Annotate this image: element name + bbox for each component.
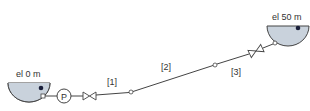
- junction-node: [129, 90, 133, 94]
- valve-icon: [248, 44, 264, 57]
- lower-reservoir: [8, 83, 50, 102]
- pump: P: [57, 89, 71, 103]
- pipe-2-label: [2]: [161, 62, 171, 72]
- outlet-node: [41, 94, 45, 98]
- valve-icon: [83, 92, 96, 100]
- pipe-3: [217, 54, 249, 64]
- junction-node: [213, 63, 217, 67]
- pipe-2: [133, 66, 213, 92]
- pipeline-diagram: el 0 m P [1] [2] [3] el 50 m: [0, 0, 310, 111]
- upper-reservoir-label: el 50 m: [272, 12, 302, 22]
- pipe-1: [96, 93, 129, 96]
- pump-label: P: [61, 92, 67, 102]
- inlet-node: [273, 41, 277, 45]
- pipe-3-label: [3]: [231, 67, 241, 77]
- upper-reservoir: [267, 26, 309, 46]
- pipe-1-label: [1]: [107, 77, 117, 87]
- water-level-dot: [39, 86, 44, 91]
- lower-reservoir-label: el 0 m: [16, 69, 41, 79]
- water-level-dot: [296, 26, 301, 31]
